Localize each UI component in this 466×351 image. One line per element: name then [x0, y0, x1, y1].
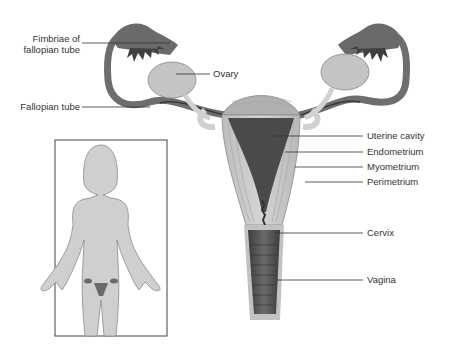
vagina: [244, 225, 284, 320]
left-fallopian-tube: [108, 24, 226, 128]
label-vagina: Vagina: [367, 274, 396, 285]
uterus: [222, 95, 300, 225]
right-ovary: [321, 54, 369, 90]
label-fimbriae: Fimbriae of fallopian tube: [18, 33, 80, 55]
right-fallopian-tube: [300, 24, 407, 128]
label-uterine-cavity: Uterine cavity: [367, 130, 425, 141]
body-inset: [41, 140, 167, 336]
label-fimbriae-line1: Fimbriae of: [18, 33, 80, 44]
label-perimetrium: Perimetrium: [367, 176, 418, 187]
label-endometrium: Endometrium: [367, 146, 424, 157]
label-cervix: Cervix: [367, 227, 394, 238]
left-ovary: [148, 62, 196, 98]
label-myometrium: Myometrium: [367, 161, 419, 172]
label-fallopian-tube: Fallopian tube: [0, 101, 80, 112]
label-fimbriae-line2: fallopian tube: [18, 44, 80, 55]
label-ovary: Ovary: [213, 68, 238, 79]
